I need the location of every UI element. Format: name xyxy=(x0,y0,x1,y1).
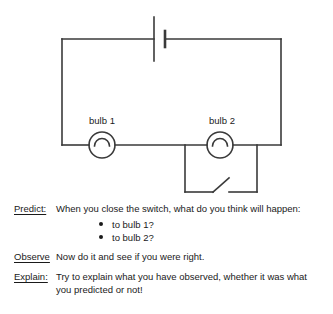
bulb1-filament xyxy=(95,139,110,147)
predict-row: Predict: When you close the switch, what… xyxy=(0,203,333,244)
predict-body-container: When you close the switch, what do you t… xyxy=(56,203,333,244)
bulb2-envelope xyxy=(207,132,233,158)
bulb1-envelope xyxy=(89,132,115,158)
predict-bullet-list: to bulb 1? to bulb 2? xyxy=(56,218,323,244)
bulb1-label: bulb 1 xyxy=(89,115,115,126)
predict-label: Predict: xyxy=(0,203,56,215)
observe-row: Observe Now do it and see if you were ri… xyxy=(0,251,333,264)
bulb2-label: bulb 2 xyxy=(209,115,235,126)
switch-blade xyxy=(213,178,229,192)
bullet-dot-icon xyxy=(99,235,103,239)
bulb2-filament xyxy=(213,139,228,147)
circuit-svg: bulb 1 bulb 2 xyxy=(0,0,333,200)
predict-body-text: When you close the switch, what do you t… xyxy=(56,203,323,216)
bullet-dot-icon xyxy=(99,222,103,226)
explain-label: Explain: xyxy=(0,271,56,283)
list-item: to bulb 1? xyxy=(99,218,323,231)
observe-label: Observe xyxy=(0,251,56,263)
explain-body-container: Try to explain what you have observed, w… xyxy=(56,271,333,296)
explain-body-text: Try to explain what you have observed, w… xyxy=(56,271,323,296)
explain-row: Explain: Try to explain what you have ob… xyxy=(0,271,333,296)
bullet-text: to bulb 2? xyxy=(112,232,154,243)
list-item: to bulb 2? xyxy=(99,231,323,244)
bullet-text: to bulb 1? xyxy=(112,219,154,230)
circuit-diagram: bulb 1 bulb 2 xyxy=(0,0,333,200)
observe-body-text: Now do it and see if you were right. xyxy=(56,251,323,264)
observe-body-container: Now do it and see if you were right. xyxy=(56,251,333,264)
worksheet-section: Predict: When you close the switch, what… xyxy=(0,203,333,296)
